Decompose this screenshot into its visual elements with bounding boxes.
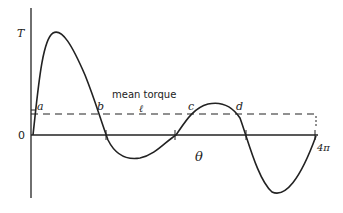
point-a-label: a <box>37 101 44 112</box>
mean-torque-label: mean torque <box>112 90 176 100</box>
point-b-label: b <box>97 101 104 112</box>
y-axis-label: T <box>17 28 24 39</box>
torque-curve <box>33 32 316 193</box>
origin-label: 0 <box>18 130 25 141</box>
point-c-label: c <box>188 101 194 112</box>
point-d-label: d <box>236 101 243 112</box>
x-end-label: 4π <box>317 143 330 153</box>
x-axis-label: θ <box>195 150 203 163</box>
mean-line-marker: ℓ <box>139 104 143 114</box>
torque-diagram <box>0 0 343 213</box>
